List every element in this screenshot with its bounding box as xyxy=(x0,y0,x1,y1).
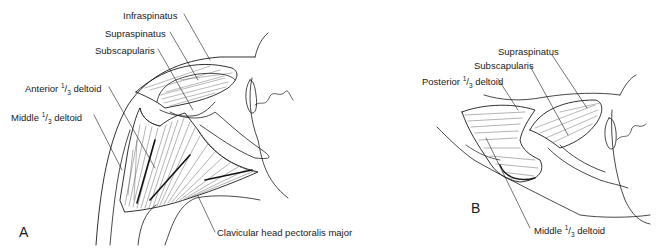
label-text: Anterior xyxy=(25,83,61,94)
fraction-numerator: 1 xyxy=(463,75,467,82)
fraction-numerator: 1 xyxy=(565,224,569,231)
label-posterior-deltoid-b: Posterior 1/3 deltoid xyxy=(422,73,503,91)
label-text: Posterior xyxy=(422,76,463,87)
label-text: deltoid xyxy=(473,76,504,87)
label-text: Middle xyxy=(534,225,565,236)
panel-b-drawing xyxy=(437,75,650,224)
label-middle-deltoid-a: Middle 1/3 deltoid xyxy=(11,109,82,127)
label-subscapularis-a: Subscapularis xyxy=(95,45,155,56)
panel-letter-a: A xyxy=(19,224,28,240)
label-supraspinatus-b: Supraspinatus xyxy=(498,46,559,57)
anatomy-figure: Infraspinatus Supraspinatus Subscapulari… xyxy=(0,0,656,250)
fraction-numerator: 1 xyxy=(61,82,65,89)
label-text: deltoid xyxy=(575,225,606,236)
label-text: deltoid xyxy=(52,112,83,123)
label-anterior-deltoid-a: Anterior 1/3 deltoid xyxy=(25,80,101,98)
illustration-line-art xyxy=(0,0,656,250)
label-text: Middle xyxy=(11,112,42,123)
label-subscapularis-b: Subscapularis xyxy=(474,60,534,71)
label-middle-deltoid-b: Middle 1/3 deltoid xyxy=(534,222,605,240)
label-supraspinatus-a: Supraspinatus xyxy=(105,28,166,39)
panel-letter-b: B xyxy=(471,200,480,216)
label-infraspinatus-a: Infraspinatus xyxy=(123,10,177,21)
label-clavicular-pectoralis-a: Clavicular head pectoralis major xyxy=(217,227,352,238)
panel-a-drawing xyxy=(96,33,293,245)
fraction-numerator: 1 xyxy=(42,111,46,118)
label-text: deltoid xyxy=(71,83,102,94)
